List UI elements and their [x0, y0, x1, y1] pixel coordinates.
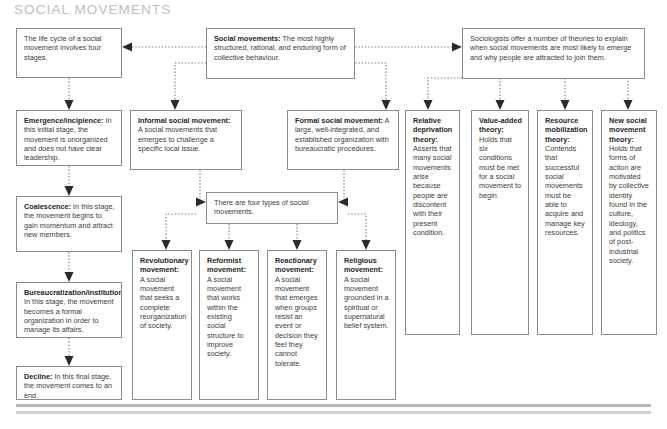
- stage-box-emergence: Emergence/incipience: In this initial st…: [16, 110, 122, 166]
- type-label: Reactionary movement:: [275, 256, 317, 274]
- form-box-formal: Formal social movement: A large, well-in…: [287, 110, 399, 170]
- type-box-reformist: Reformist movement: A social movement th…: [199, 250, 259, 400]
- four-types-intro-box: There are four types of social movements…: [206, 192, 338, 224]
- theories-intro-text: Sociologists offer a number of theories …: [470, 34, 631, 62]
- theory-label: Resource mobilization theory:: [545, 116, 588, 144]
- theory-box-relative-deprivation: Relative deprivation theory: Asserts tha…: [405, 110, 460, 335]
- theory-text: Holds that forms of action are motivated…: [609, 144, 649, 265]
- four-types-intro-text: There are four types of social movements…: [214, 198, 309, 216]
- stage-box-bureaucratization: Bureaucratization/institutionalization: …: [16, 282, 122, 338]
- stage-label: Coalescence:: [24, 202, 71, 211]
- theory-label: Relative deprivation theory:: [413, 116, 452, 144]
- theory-box-resource-mobilization: Resource mobilization theory: Contends t…: [537, 110, 593, 335]
- theory-label: New social movement theory:: [609, 116, 647, 144]
- type-text: A social movement that works within the …: [207, 275, 244, 359]
- theory-box-value-added: Value-added theory: Holds that six condi…: [471, 110, 529, 335]
- definition-label: Social movements:: [214, 34, 281, 43]
- theory-label: Value-added theory:: [479, 116, 522, 134]
- footer-rule-bottom: [16, 411, 651, 414]
- form-label: Informal social movement:: [138, 116, 230, 125]
- type-text: A social movement that seeks a complete …: [140, 275, 186, 331]
- form-text: A social movements that emerges to chall…: [138, 125, 217, 153]
- type-box-religious: Religious movement: A social movement gr…: [336, 250, 396, 400]
- stage-label: Bureaucratization/institutionalization:: [24, 288, 122, 297]
- form-box-informal: Informal social movement: A social movem…: [130, 110, 242, 170]
- life-cycle-intro-text: The life cycle of a social movement invo…: [24, 34, 101, 62]
- theory-text: Holds that six conditions must be met fo…: [479, 135, 521, 200]
- stage-text: In this stage, the movement becomes a fo…: [24, 297, 114, 334]
- definition-box: Social movements: The most highly struct…: [206, 28, 355, 79]
- type-box-reactionary: Reactionary movement: A social movement …: [267, 250, 327, 400]
- theory-box-new-social-movement: New social movement theory: Holds that f…: [601, 110, 657, 335]
- type-text: A social movement grounded in a spiritua…: [344, 275, 389, 331]
- type-label: Revolutionary movement:: [140, 256, 189, 274]
- theory-text: Asserts that many social movements arise…: [413, 144, 452, 237]
- type-box-revolutionary: Revolutionary movement: A social movemen…: [132, 250, 192, 400]
- theories-intro-box: Sociologists offer a number of theories …: [462, 28, 645, 79]
- stage-label: Emergence/incipience:: [24, 116, 104, 125]
- type-text: A social movement that emerges when grou…: [275, 275, 318, 368]
- stage-box-decline: Decline: In this final stage, the moveme…: [16, 366, 122, 400]
- stage-label: Decline:: [24, 372, 52, 381]
- type-label: Religious movement:: [344, 256, 383, 274]
- stage-box-coalescence: Coalescence: In this stage, the movement…: [16, 196, 122, 252]
- diagram-canvas: SOCIAL MOVEMENTS: [0, 0, 667, 429]
- type-label: Reformist movement:: [207, 256, 246, 274]
- footer-rule-top: [16, 404, 651, 407]
- form-label: Formal social movement:: [295, 116, 383, 125]
- page-title: SOCIAL MOVEMENTS: [14, 2, 171, 17]
- theory-text: Contends that successful social movement…: [545, 144, 585, 237]
- life-cycle-intro-box: The life cycle of a social movement invo…: [16, 28, 122, 78]
